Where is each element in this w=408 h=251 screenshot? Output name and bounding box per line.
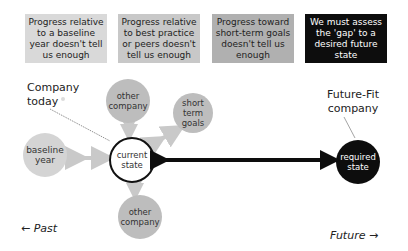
company-today-label: Company today xyxy=(27,81,79,109)
future-fit-label: Future-Fit company xyxy=(318,88,388,116)
label-short-term-goals: short term goals xyxy=(176,98,210,128)
future-fit-leader xyxy=(344,117,355,138)
past-label: ← Past xyxy=(21,222,57,236)
future-label: Future → xyxy=(330,229,378,243)
label-required-state: required state xyxy=(339,152,377,172)
company-today-leader xyxy=(50,109,110,141)
label-other-company-top: other company xyxy=(106,91,150,111)
label-current-state: current state xyxy=(114,150,150,170)
label-other-company-bottom: other company xyxy=(118,207,162,227)
label-baseline-year: baseline year xyxy=(26,145,64,165)
arrow-goals-current xyxy=(156,131,175,142)
